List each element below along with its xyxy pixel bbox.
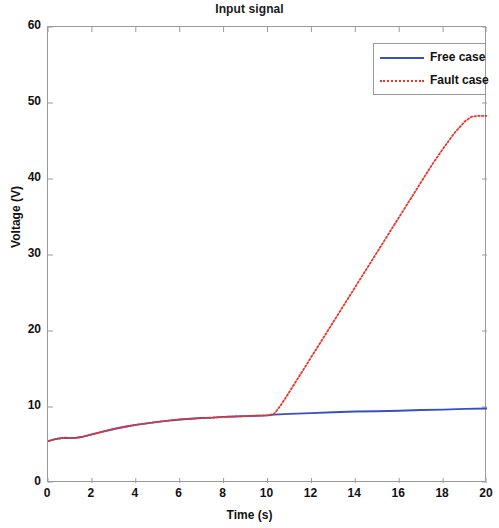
chart-title: Input signal [0, 2, 499, 16]
x-tick-4: 4 [120, 487, 150, 499]
legend-item-free-case: Free case [374, 47, 487, 69]
y-tick-60: 60 [7, 20, 41, 30]
x-tick-20: 20 [471, 487, 499, 499]
y-axis-label: Voltage (V) [9, 157, 23, 277]
y-tick-20: 20 [7, 324, 41, 334]
x-tick-18: 18 [427, 487, 457, 499]
y-tick-50: 50 [7, 96, 41, 106]
legend-label-free-case: Free case [430, 50, 485, 64]
chart-container: Input signal 0102030405060 0246810121416… [0, 0, 499, 528]
x-tick-8: 8 [208, 487, 238, 499]
legend-swatch-fault-case [380, 80, 424, 82]
legend-item-fault-case: Fault case [374, 70, 487, 92]
legend-label-fault-case: Fault case [430, 73, 489, 87]
x-tick-6: 6 [164, 487, 194, 499]
y-tick-0: 0 [7, 476, 41, 486]
x-tick-14: 14 [339, 487, 369, 499]
legend-swatch-free-case [380, 57, 424, 59]
plot-canvas [48, 27, 487, 483]
y-tick-10: 10 [7, 400, 41, 410]
x-axis-label: Time (s) [0, 508, 499, 522]
x-tick-16: 16 [383, 487, 413, 499]
chart-legend: Free case Fault case [373, 43, 486, 95]
x-tick-12: 12 [295, 487, 325, 499]
x-tick-2: 2 [76, 487, 106, 499]
x-tick-10: 10 [252, 487, 282, 499]
x-tick-0: 0 [32, 487, 62, 499]
